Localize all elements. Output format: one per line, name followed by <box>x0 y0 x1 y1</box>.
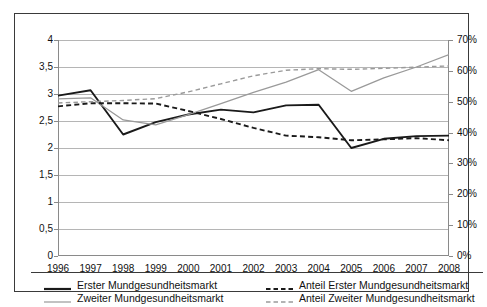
chart-plot-svg <box>58 40 449 256</box>
y-axis-left-tick: 2 <box>21 143 53 153</box>
y-axis-left-tick: 4 <box>21 35 53 45</box>
y-axis-right-tick: 40% <box>457 128 487 138</box>
y-axis-left-tickmark <box>54 202 58 203</box>
y-axis-right-tickmark <box>449 256 453 257</box>
y-axis-left-tick: 1,5 <box>21 170 53 180</box>
y-axis-right-tick: 0% <box>457 251 487 261</box>
y-axis-right-tickmark <box>449 40 453 41</box>
legend-item: Erster Mundgesundheitsmarkt <box>44 279 217 291</box>
legend-item: Zweiter Mundgesundheitsmarkt <box>44 292 223 304</box>
legend-label: Erster Mundgesundheitsmarkt <box>77 280 217 291</box>
y-axis-right-tickmark <box>449 71 453 72</box>
y-axis-left-tickmark <box>54 94 58 95</box>
y-axis-right-tickmark <box>449 194 453 195</box>
legend-swatch <box>266 280 293 290</box>
y-axis-left-tick: 2,5 <box>21 116 53 126</box>
y-axis-right-tickmark <box>449 102 453 103</box>
y-axis-left-tick: 3,5 <box>21 62 53 72</box>
y-axis-right-tickmark <box>449 163 453 164</box>
y-axis-right-tick: 10% <box>457 220 487 230</box>
y-axis-left-tick: 0 <box>21 251 53 261</box>
y-axis-right-tickmark <box>449 225 453 226</box>
legend-swatch <box>266 293 293 303</box>
y-axis-left-tickmark <box>54 229 58 230</box>
y-axis-left-tickmark <box>54 40 58 41</box>
series-line-2 <box>58 103 449 140</box>
y-axis-right-tick: 60% <box>457 66 487 76</box>
y-axis-right-tickmark <box>449 133 453 134</box>
legend-swatch <box>44 280 71 290</box>
y-axis-right-tick: 20% <box>457 189 487 199</box>
legend-item: Anteil Erster Mundgesundheitsmarkt <box>266 279 468 291</box>
y-axis-left-tickmark <box>54 148 58 149</box>
legend-label: Zweiter Mundgesundheitsmarkt <box>77 293 223 304</box>
y-axis-left-tickmark <box>54 256 58 257</box>
y-axis-left-tick: 1 <box>21 197 53 207</box>
plot-area <box>58 40 449 256</box>
legend-label: Anteil Zweiter Mundgesundheitsmarkt <box>299 293 475 304</box>
y-axis-left-tick: 3 <box>21 89 53 99</box>
y-axis-right-tick: 30% <box>457 158 487 168</box>
y-axis-left-tickmark <box>54 175 58 176</box>
legend-item: Anteil Zweiter Mundgesundheitsmarkt <box>266 292 475 304</box>
y-axis-left-tickmark <box>54 67 58 68</box>
legend-separator <box>31 272 483 273</box>
y-axis-left-tickmark <box>54 121 58 122</box>
legend-label: Anteil Erster Mundgesundheitsmarkt <box>299 280 468 291</box>
chart-legend: Erster MundgesundheitsmarktZweiter Mundg… <box>44 279 474 303</box>
chart-frame: 00,511,522,533,54 0%10%20%30%40%50%60%70… <box>14 13 469 292</box>
y-axis-right-tick: 70% <box>457 35 487 45</box>
y-axis-left-tick: 0,5 <box>21 224 53 234</box>
legend-swatch <box>44 293 71 303</box>
series-line-3 <box>58 66 449 103</box>
series-line-1 <box>58 55 449 125</box>
y-axis-right-tick: 50% <box>457 97 487 107</box>
